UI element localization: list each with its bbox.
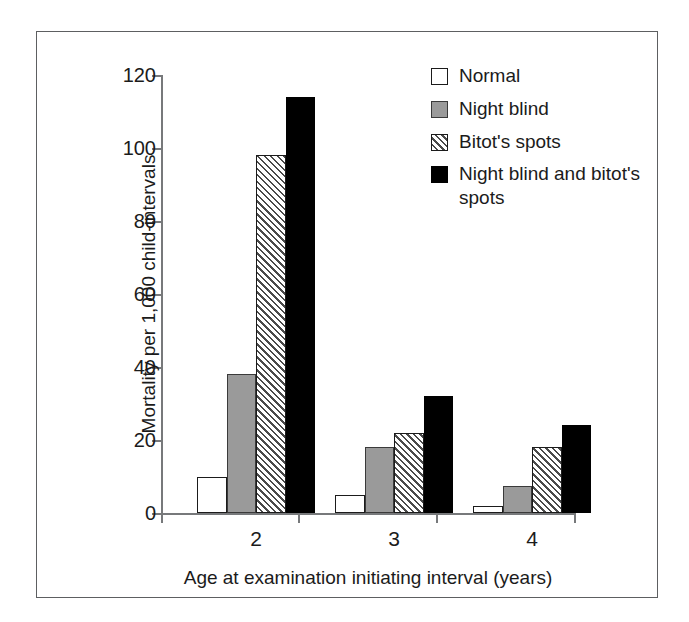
legend-label: Normal [459, 64, 520, 88]
y-tick-label: 120 [123, 64, 156, 87]
bar-night-blind-age-3 [365, 447, 395, 513]
legend-label: Night blind and bitot's spots [459, 162, 646, 210]
bar-bitot-s-spots-age-2 [256, 155, 286, 513]
bar-night-blind-age-4 [503, 486, 533, 513]
legend-swatch-normal [431, 68, 448, 85]
x-category-label-2: 2 [250, 527, 262, 551]
bar-night-blind-age-2 [227, 374, 257, 513]
x-axis-title: Age at examination initiating interval (… [184, 567, 553, 589]
legend-item-normal: Normal [431, 64, 646, 88]
x-tick-mark [574, 513, 576, 523]
figure-frame: 020406080100120 234 Mortality per 1,000 … [36, 31, 658, 598]
bar-normal-age-4 [473, 506, 503, 513]
x-category-label-3: 3 [388, 527, 400, 551]
legend-item-bitot-s-spots: Bitot's spots [431, 130, 646, 154]
y-axis-title: Mortality per 1,000 child-intervals [138, 155, 160, 434]
x-axis-line [161, 513, 575, 515]
chart-legend: NormalNight blindBitot's spotsNight blin… [431, 64, 646, 219]
legend-label: Bitot's spots [459, 130, 561, 154]
x-tick-mark [436, 513, 438, 523]
x-category-label-4: 4 [526, 527, 538, 551]
legend-label: Night blind [459, 97, 549, 121]
bar-normal-age-3 [335, 495, 365, 513]
bar-normal-age-2 [197, 477, 227, 514]
legend-swatch-bitots-spots [431, 134, 448, 151]
bar-night-blind-and-bitot-s-spots-age-4 [562, 425, 592, 513]
legend-item-night-blind-and-bitot-s-spots: Night blind and bitot's spots [431, 162, 646, 210]
bar-bitot-s-spots-age-4 [532, 447, 562, 513]
legend-item-night-blind: Night blind [431, 97, 646, 121]
bar-group-age-2 [161, 75, 299, 513]
y-tick-label: 0 [145, 502, 156, 525]
legend-swatch-night-blind-and-bitots-spots [431, 166, 448, 183]
x-tick-mark [298, 513, 300, 523]
bar-group-age-3 [299, 75, 437, 513]
x-tick-mark [161, 513, 163, 523]
bar-bitot-s-spots-age-3 [394, 433, 424, 513]
legend-swatch-night-blind [431, 101, 448, 118]
